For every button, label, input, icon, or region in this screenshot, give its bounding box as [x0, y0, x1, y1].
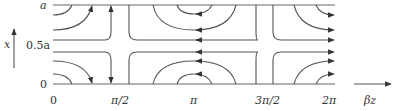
- field-line: [294, 5, 334, 30]
- y-axis-label: x: [4, 38, 11, 51]
- field-line: [153, 5, 236, 30]
- field-line: [316, 5, 334, 15]
- field-line: [129, 5, 258, 40]
- field-line: [153, 61, 236, 84]
- x-axis-label: βz: [363, 94, 376, 107]
- field-line-diagram: x a 0.5a 0 0 π/2 π 3π/2 2π βz: [0, 0, 394, 111]
- field-line: [177, 5, 212, 14]
- field-line: [53, 6, 92, 30]
- y-tick-zero: 0: [40, 78, 47, 91]
- field-line: [53, 61, 92, 83]
- field-line: [294, 61, 334, 84]
- y-tick-half: 0.5a: [26, 39, 50, 52]
- field-line: [316, 74, 334, 84]
- field-line: [177, 74, 212, 84]
- field-line: [273, 5, 334, 40]
- field-line: [53, 5, 72, 15]
- field-line: [53, 6, 111, 40]
- field-line: [273, 52, 334, 84]
- field-line: [53, 52, 111, 83]
- x-tick-3pi-half: 3π/2: [255, 94, 280, 107]
- field-line: [129, 52, 258, 84]
- field-line: [53, 74, 72, 84]
- x-tick-pi-half: π/2: [110, 94, 129, 107]
- x-tick-2pi: 2π: [321, 94, 337, 107]
- x-tick-pi: π: [189, 94, 198, 107]
- y-tick-a: a: [40, 0, 47, 12]
- x-tick-0: 0: [50, 94, 57, 107]
